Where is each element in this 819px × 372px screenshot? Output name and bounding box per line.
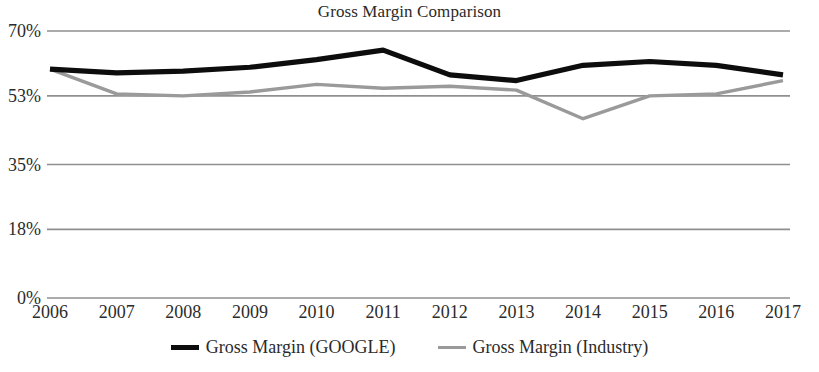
series-line-google [50,50,783,81]
x-axis-tick-label: 2006 [15,303,85,321]
series-line-industry [50,69,783,119]
legend-item-label: Gross Margin (GOOGLE) [206,338,396,356]
plot-area [0,0,819,310]
chart-legend: Gross Margin (GOOGLE)Gross Margin (Indus… [0,338,819,356]
legend-item[interactable]: Gross Margin (GOOGLE) [171,338,396,356]
x-axis-tick-label: 2008 [148,303,218,321]
x-axis-tick-label: 2010 [282,303,352,321]
x-axis-tick-label: 2012 [415,303,485,321]
y-axis-tick-label: 35% [8,156,41,174]
legend-item[interactable]: Gross Margin (Industry) [438,338,649,356]
x-axis-tick-label: 2009 [215,303,285,321]
x-axis-tick-label: 2014 [548,303,618,321]
x-axis-tick-label: 2016 [681,303,751,321]
y-axis-tick-label: 70% [8,22,41,40]
x-axis-tick-label: 2017 [748,303,818,321]
y-axis-tick-label: 18% [8,220,41,238]
industry-line-swatch [438,346,466,349]
plot-svg [0,0,819,310]
x-axis-tick-label: 2013 [481,303,551,321]
x-axis-tick-label: 2007 [82,303,152,321]
legend-item-label: Gross Margin (Industry) [473,338,649,356]
x-axis-tick-label: 2011 [348,303,418,321]
google-line-swatch [171,345,199,350]
gross-margin-comparison-chart: Gross Margin Comparison 0%18%35%53%70% 2… [0,0,819,372]
y-axis-tick-label: 53% [8,87,41,105]
x-axis-tick-label: 2015 [615,303,685,321]
